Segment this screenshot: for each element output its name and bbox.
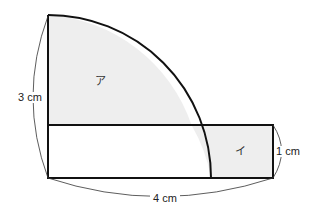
label-4cm: 4 cm (150, 193, 180, 204)
geometry-diagram (0, 0, 320, 217)
label-region-i: イ (235, 146, 246, 157)
label-1cm: 1 cm (276, 146, 300, 157)
label-region-a: ア (95, 76, 106, 87)
label-3cm: 3 cm (18, 92, 42, 103)
